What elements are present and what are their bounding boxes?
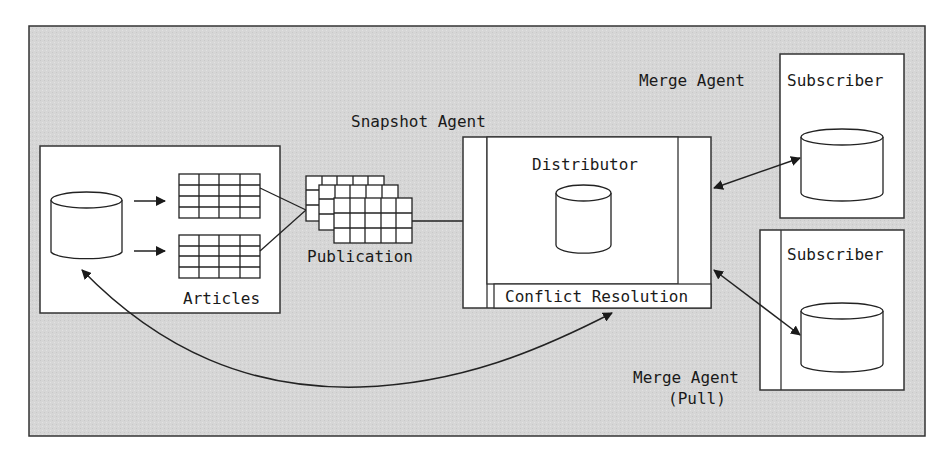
distribution-database-icon [556, 185, 611, 253]
merge-agent-label: Merge Agent [639, 71, 745, 90]
article-table-icon [179, 235, 260, 278]
subscriber-1-label: Subscriber [787, 71, 884, 90]
distributor-box: Distributor Conflict Resolution [463, 137, 711, 308]
distributor-label: Distributor [532, 155, 638, 174]
publisher-box: Articles [40, 146, 280, 313]
merge-agent-pull-sublabel: (Pull) [668, 389, 726, 408]
articles-label: Articles [183, 289, 260, 308]
merge-agent-pull-label: Merge Agent [633, 368, 739, 387]
subscriber-2-database-icon [801, 303, 883, 372]
conflict-resolution-label: Conflict Resolution [505, 287, 688, 306]
publisher-database-icon [51, 192, 122, 259]
subscriber-2-label: Subscriber [787, 245, 884, 264]
publication-label: Publication [307, 247, 413, 266]
snapshot-agent-label: Snapshot Agent [351, 112, 486, 131]
article-table-icon [179, 174, 260, 218]
subscriber-1-database-icon [801, 129, 883, 201]
subscriber-2-box: Subscriber [760, 230, 904, 390]
merge-replication-diagram: Articles Publication Snapshot Agent [0, 0, 952, 457]
subscriber-1-box: Subscriber [780, 54, 904, 218]
